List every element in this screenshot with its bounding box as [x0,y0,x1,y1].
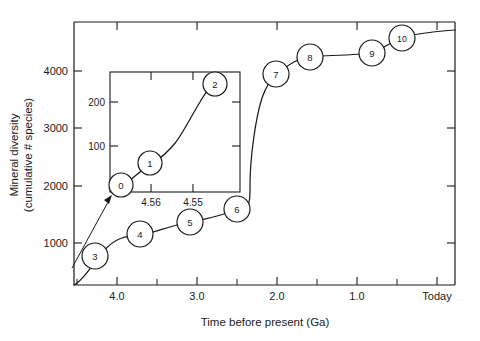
stage-marker-7-label: 7 [273,69,278,80]
inset-y-tick-label-200: 200 [88,97,105,108]
y-axis-title-line1: Mineral diversity [8,113,20,196]
x-tick-label-4-0: 4.0 [109,290,124,302]
stage-marker-6[interactable]: 6 [224,196,250,222]
inset-x-tick-label-4-55: 4.55 [183,197,203,208]
x-tick-label-today: Today [422,290,452,302]
inset-stage-marker-1-label: 1 [147,158,152,169]
inset-stage-marker-0-label: 0 [118,180,123,191]
stage-marker-4-label: 4 [137,229,142,240]
y-tick-label-4000: 4000 [44,65,68,77]
y-axis-title-line2: (cumulative # species) [22,98,34,213]
stage-marker-5[interactable]: 5 [177,209,203,235]
stage-marker-3[interactable]: 3 [82,243,108,269]
x-tick-label-2-0: 2.0 [269,290,284,302]
stage-marker-10[interactable]: 10 [389,25,415,51]
stage-marker-9[interactable]: 9 [359,40,385,66]
inset-stage-marker-1[interactable]: 1 [138,151,162,175]
mineral-diversity-figure: 1000 2000 3000 4000 Mineral diversity (c… [0,0,480,341]
y-tick-label-2000: 2000 [44,180,68,192]
x-tick-label-3-0: 3.0 [189,290,204,302]
inset-stage-marker-2-label: 2 [212,79,217,90]
stage-marker-7[interactable]: 7 [263,61,289,87]
x-axis-tick-labels: 4.0 3.0 2.0 1.0 Today [109,290,452,302]
x-axis-title: Time before present (Ga) [201,316,330,328]
stage-marker-9-label: 9 [369,48,374,59]
y-axis-tick-labels: 1000 2000 3000 4000 [44,65,68,249]
stage-marker-8[interactable]: 8 [297,44,323,70]
stage-marker-5-label: 5 [187,217,192,228]
stage-marker-10-label: 10 [397,34,407,44]
y-tick-label-1000: 1000 [44,237,68,249]
y-tick-label-3000: 3000 [44,122,68,134]
x-tick-label-1-0: 1.0 [349,290,364,302]
inset-stage-marker-0[interactable]: 0 [109,173,133,197]
stage-marker-4[interactable]: 4 [127,221,153,247]
stage-marker-3-label: 3 [92,251,97,262]
stage-marker-8-label: 8 [307,52,312,63]
inset-x-tick-label-4-56: 4.56 [141,197,161,208]
stage-marker-6-label: 6 [234,204,239,215]
inset-y-tick-label-100: 100 [88,141,105,152]
y-axis-title: Mineral diversity (cumulative # species) [8,98,34,213]
chart-svg: 1000 2000 3000 4000 Mineral diversity (c… [0,0,480,341]
inset-stage-marker-2[interactable]: 2 [203,72,227,96]
inset-panel: 100 200 4.56 4.55 0 1 [88,72,240,208]
